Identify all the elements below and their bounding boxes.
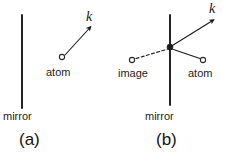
panel-b: k image atom mirror (b) [113,0,226,163]
panel-caption-a: (a) [19,131,40,149]
panel-a: k atom mirror (a) [0,0,113,163]
panel-caption-b: (b) [156,131,177,149]
image-ray-b [136,49,168,59]
atom-label-a: atom [46,66,70,78]
wavevector-label-a: k [86,11,92,23]
image-label-b: image [118,67,148,79]
image-marker-b [129,57,134,62]
wavevector-label-b: k [209,3,215,15]
atom-marker-a [59,54,64,59]
panel-a-graphics [0,0,113,163]
atom-label-b: atom [188,67,212,79]
wavevector-arrow-a [65,27,91,55]
intersection-dot-b [167,44,173,50]
figure-root: k atom mirror (a) k image atom mirror (b [0,0,226,163]
mirror-label-b: mirror [145,110,174,122]
wavevector-arrow-b [170,20,214,47]
atom-ray-b [172,49,200,59]
atom-marker-b [200,57,205,62]
mirror-label-a: mirror [3,110,32,122]
